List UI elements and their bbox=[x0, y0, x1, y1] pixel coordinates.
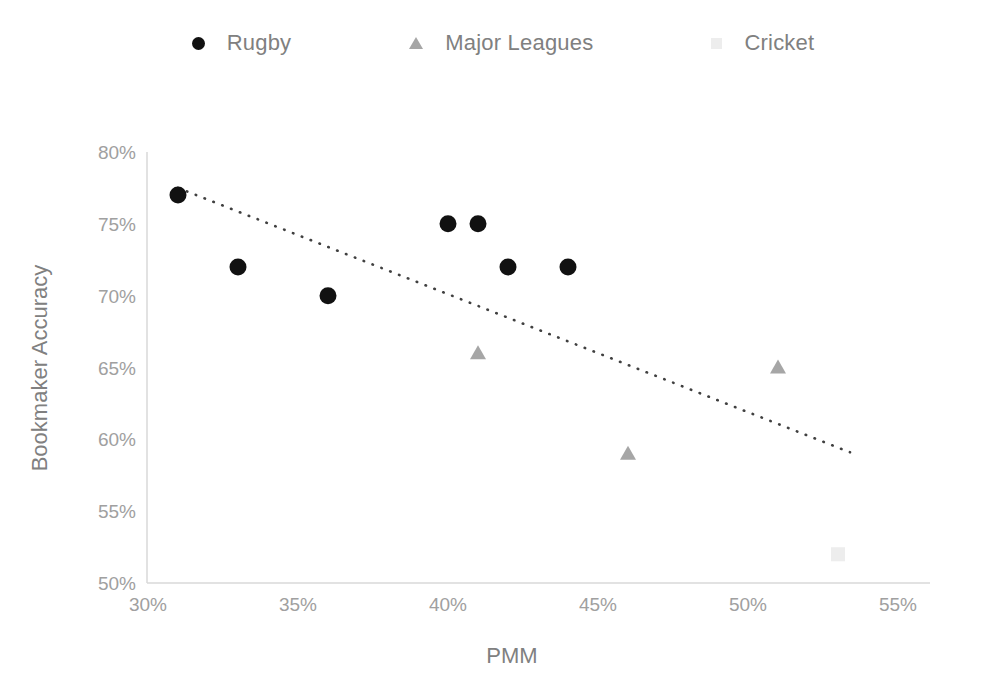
data-point bbox=[170, 187, 187, 204]
x-tick-label: 50% bbox=[729, 594, 767, 615]
series-major-leagues-points bbox=[470, 345, 786, 460]
y-tick-label: 75% bbox=[98, 214, 136, 235]
data-point bbox=[831, 547, 845, 561]
data-point bbox=[320, 287, 337, 304]
data-point bbox=[620, 446, 636, 460]
y-tick-label: 70% bbox=[98, 286, 136, 307]
y-axis-title: Bookmaker Accuracy bbox=[27, 265, 52, 472]
x-axis-title: PMM bbox=[486, 643, 537, 668]
y-tick-label: 60% bbox=[98, 429, 136, 450]
data-point bbox=[470, 215, 487, 232]
plot-area: 50%55%60%65%70%75%80% 30%35%40%45%50%55%… bbox=[0, 0, 1006, 695]
y-tick-label: 80% bbox=[98, 142, 136, 163]
trendline bbox=[178, 188, 850, 452]
trendline-path bbox=[178, 188, 850, 452]
y-tick-label: 65% bbox=[98, 358, 136, 379]
data-point bbox=[470, 345, 486, 359]
series-rugby-points bbox=[170, 187, 577, 305]
x-tick-label: 55% bbox=[879, 594, 917, 615]
y-tick-label: 50% bbox=[98, 573, 136, 594]
y-tick-label: 55% bbox=[98, 501, 136, 522]
data-point bbox=[770, 360, 786, 374]
x-tick-label: 30% bbox=[129, 594, 167, 615]
scatter-chart: Rugby Major Leagues Cricket 50%55%60%65%… bbox=[0, 0, 1006, 695]
x-tick-label: 45% bbox=[579, 594, 617, 615]
y-tick-labels: 50%55%60%65%70%75%80% bbox=[98, 142, 136, 594]
data-point bbox=[500, 258, 517, 275]
data-point bbox=[230, 258, 247, 275]
series-cricket-points bbox=[831, 547, 845, 561]
data-point bbox=[440, 215, 457, 232]
x-tick-label: 35% bbox=[279, 594, 317, 615]
data-point bbox=[560, 258, 577, 275]
x-tick-label: 40% bbox=[429, 594, 467, 615]
x-tick-labels: 30%35%40%45%50%55% bbox=[129, 594, 917, 615]
